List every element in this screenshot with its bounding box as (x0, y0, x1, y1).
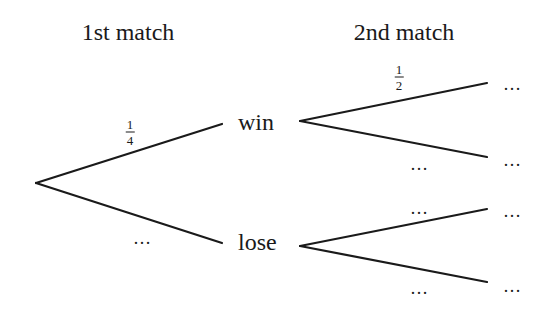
branch-lose-win (300, 209, 487, 246)
prob-root-win-numerator: 1 (126, 118, 135, 133)
tree-lines (0, 0, 552, 310)
outcome-win-lose: … (503, 151, 523, 169)
outcome-win-win: … (503, 75, 523, 93)
node-win: win (238, 110, 274, 134)
prob-win-win: 1 2 (395, 63, 404, 92)
prob-win-win-numerator: 1 (395, 63, 404, 78)
prob-win-win-denominator: 2 (396, 78, 403, 92)
outcome-lose-lose: … (503, 277, 523, 295)
prob-win-lose: … (410, 155, 430, 173)
prob-root-win: 1 4 (126, 118, 135, 147)
node-lose: lose (238, 230, 277, 254)
branch-lose-lose (300, 246, 487, 282)
prob-lose-lose: … (410, 279, 430, 297)
prob-lose-win: … (410, 199, 430, 217)
branch-win-win (300, 83, 487, 121)
outcome-lose-win: … (503, 202, 523, 220)
branch-win-lose (300, 121, 487, 157)
prob-root-lose: … (133, 229, 153, 247)
branch-root-lose (36, 183, 222, 243)
prob-root-win-denominator: 4 (127, 133, 134, 147)
header-second-match: 2nd match (354, 20, 455, 44)
header-first-match: 1st match (82, 20, 175, 44)
